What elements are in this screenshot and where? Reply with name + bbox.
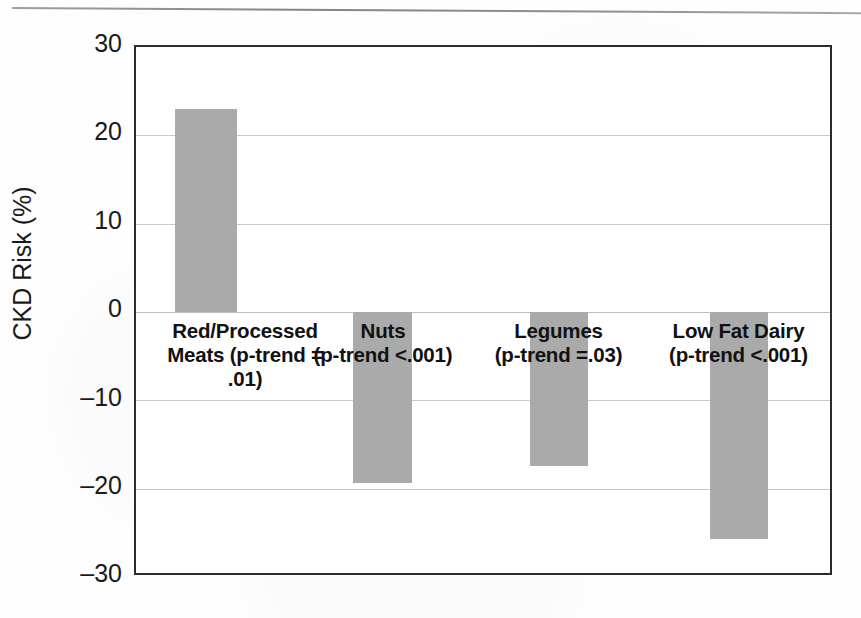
y-tick-30-label: 30	[94, 29, 122, 58]
y-tick-20-label: 20	[94, 117, 122, 146]
gridline-20	[136, 135, 830, 136]
y-tick-neg10-label: –10	[80, 383, 122, 412]
scan-artifact-line	[12, 7, 861, 14]
y-tick-0-label: 0	[108, 294, 122, 323]
bar-red-processed-meats	[175, 109, 237, 312]
y-tick-neg30-label: –30	[80, 559, 122, 588]
category-label-low-fat-dairy: Low Fat Dairy (p-trend <.001)	[626, 319, 851, 367]
y-tick-10-label: 10	[94, 206, 122, 235]
plot-area: Red/Processed Meats (p-trend = .01) Nuts…	[134, 45, 832, 575]
y-tick-neg20-label: –20	[80, 471, 122, 500]
y-axis-title: CKD Risk (%)	[8, 54, 37, 474]
bar-chart-figure: CKD Risk (%) 30 20 10 0 –10 –20 –30 Red/…	[0, 0, 861, 618]
gridline-10	[136, 224, 830, 225]
